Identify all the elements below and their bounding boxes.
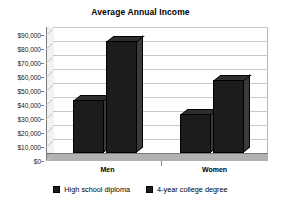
y-axis-tick-label: $20,000	[18, 130, 42, 137]
gridline	[53, 27, 268, 28]
y-axis-tick-label: $0	[34, 158, 41, 165]
chart-container: Average Annual Income $0$10,000$20,000$3…	[0, 0, 281, 204]
y-axis-tick-label: $30,000	[18, 116, 42, 123]
y-axis-tickmark	[41, 77, 44, 78]
legend-label: High school diploma	[64, 185, 130, 194]
y-axis-tickmark	[41, 35, 44, 36]
legend-swatch-icon	[146, 186, 153, 193]
gridline	[53, 41, 268, 42]
y-axis-tickmark	[41, 147, 44, 148]
plot-floor	[46, 153, 268, 161]
y-axis-tick-label: $60,000	[18, 74, 42, 81]
legend-label: 4-year college degree	[157, 185, 228, 194]
bar-front-face	[180, 114, 211, 153]
bar-women-series-2	[213, 80, 244, 153]
bar-side-face	[243, 74, 250, 153]
y-axis-tickmark	[41, 105, 44, 106]
chart-legend: High school diploma 4-year college degre…	[0, 185, 281, 194]
y-axis-tick-label: $90,000	[18, 32, 42, 39]
category-label-men: Men	[54, 166, 161, 173]
y-axis-tick-label: $70,000	[18, 60, 42, 67]
y-axis-tick-label: $80,000	[18, 46, 42, 53]
gridline	[53, 69, 268, 70]
category-label-women: Women	[161, 166, 268, 173]
bar-front-face	[73, 100, 104, 153]
bar-front-face	[213, 80, 244, 153]
y-axis-tickmark	[41, 49, 44, 50]
y-axis-tickmark	[41, 133, 44, 134]
legend-swatch-icon	[53, 186, 60, 193]
gridline	[53, 153, 268, 154]
y-axis-tickmark	[41, 91, 44, 92]
y-axis-tick-label: $40,000	[18, 102, 42, 109]
y-axis-tick-label: $10,000	[18, 144, 42, 151]
y-axis-tickmark	[41, 161, 44, 162]
y-axis-tickmark	[41, 119, 44, 120]
bar-men-series-1	[73, 100, 104, 153]
plot-area	[46, 27, 268, 161]
gridline	[53, 55, 268, 56]
category-separator	[161, 161, 162, 166]
chart-title: Average Annual Income	[0, 7, 281, 17]
bar-front-face	[106, 41, 137, 153]
legend-item: 4-year college degree	[146, 185, 228, 194]
bar-women-series-1	[180, 114, 211, 153]
bar-side-face	[136, 35, 143, 153]
y-axis-tick-labels: $0$10,000$20,000$30,000$40,000$50,000$60…	[0, 27, 44, 161]
bar-men-series-2	[106, 41, 137, 153]
y-axis-tickmark	[41, 63, 44, 64]
legend-item: High school diploma	[53, 185, 130, 194]
y-axis-tick-label: $50,000	[18, 88, 42, 95]
